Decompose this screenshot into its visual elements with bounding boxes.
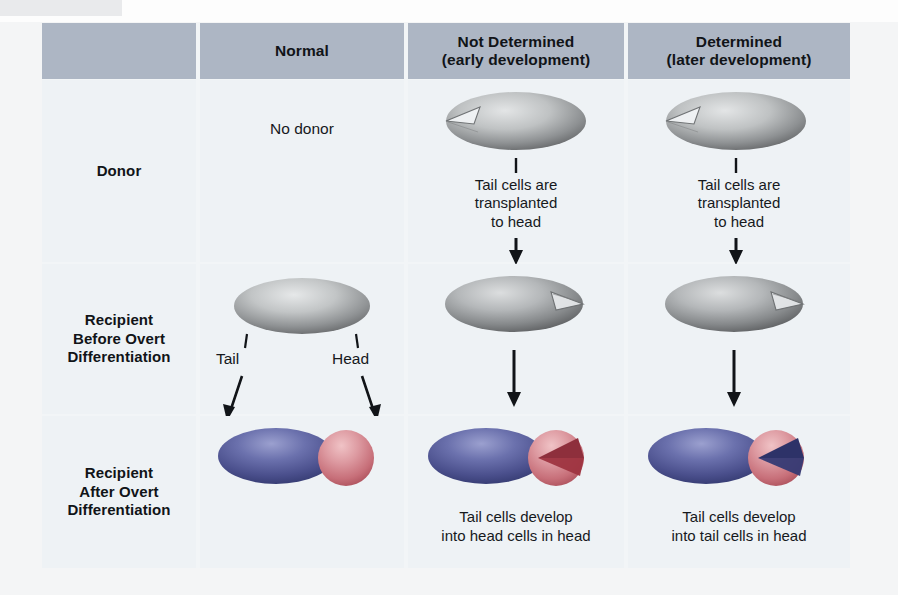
header-determined-line1: Determined	[667, 33, 812, 51]
normal-embryo-plain	[200, 264, 404, 414]
scan-artifact-corner	[0, 0, 122, 16]
cell-determined-recipient-after: Tail cells develop into tail cells in he…	[628, 416, 850, 568]
caption-not-determined: Tail cells develop into head cells in he…	[408, 508, 624, 546]
cell-not-determined-recipient-after: Tail cells develop into head cells in he…	[408, 416, 624, 568]
differentiated-embryo-normal	[200, 416, 404, 568]
row-label-recipient-after-text: Recipient After Overt Differentiation	[67, 464, 170, 520]
cell-normal-recipient-before: Tail Head	[200, 264, 404, 414]
header-cell-normal: Normal	[200, 23, 404, 79]
row-label-rb-line1: Recipient	[67, 311, 170, 330]
no-donor-text: No donor	[200, 120, 404, 138]
caption-determined: Tail cells develop into tail cells in he…	[628, 508, 850, 546]
row-label-recipient-before-text: Recipient Before Overt Differentiation	[67, 311, 170, 367]
header-normal-line1: Normal	[275, 42, 329, 60]
cell-determined-donor: Tail cells are transplanted to head	[628, 80, 850, 262]
row-label-donor-line1: Donor	[97, 162, 142, 181]
header-cell-corner	[42, 23, 196, 79]
scan-top-band	[0, 0, 898, 22]
table-header-row: Normal Not Determined (early development…	[42, 23, 850, 79]
cell-determined-recipient-before	[628, 264, 850, 414]
table-body: Donor No donor	[42, 80, 850, 568]
figure-plate: Normal Not Determined (early development…	[42, 23, 850, 568]
tail-label: Tail	[216, 350, 239, 368]
caption-d-line1: Tail cells develop	[628, 508, 850, 527]
header-not-determined-line1: Not Determined	[442, 33, 590, 51]
row-label-donor: Donor	[42, 80, 196, 262]
row-label-rb-line2: Before Overt	[67, 330, 170, 349]
header-not-determined-line2: (early development)	[442, 51, 590, 69]
header-cell-not-determined: Not Determined (early development)	[408, 23, 624, 79]
recipient-embryo-determined	[628, 264, 850, 414]
header-cell-determined: Determined (later development)	[628, 23, 850, 79]
row-label-recipient-before: Recipient Before Overt Differentiation	[42, 264, 196, 414]
recipient-embryo-not-determined	[408, 264, 624, 414]
cell-normal-recipient-after	[200, 416, 404, 568]
row-label-ra-line3: Differentiation	[67, 501, 170, 520]
header-determined-label: Determined (later development)	[667, 33, 812, 70]
row-label-ra-line2: After Overt	[67, 483, 170, 502]
caption-nd-line1: Tail cells develop	[408, 508, 624, 527]
header-determined-line2: (later development)	[667, 51, 812, 69]
row-label-donor-text: Donor	[97, 162, 142, 181]
header-not-determined-label: Not Determined (early development)	[442, 33, 590, 70]
caption-d-line2: into tail cells in head	[628, 527, 850, 546]
cell-normal-donor: No donor	[200, 80, 404, 262]
caption-nd-line2: into head cells in head	[408, 527, 624, 546]
row-label-ra-line1: Recipient	[67, 464, 170, 483]
arrow-down-icon-determined-donor	[628, 80, 850, 262]
header-normal-label: Normal	[275, 42, 329, 60]
head-label: Head	[332, 350, 369, 368]
row-label-rb-line3: Differentiation	[67, 348, 170, 367]
cell-not-determined-donor: Tail cells are transplanted to head	[408, 80, 624, 262]
cell-not-determined-recipient-before	[408, 264, 624, 414]
arrow-down-icon-not-determined-donor	[408, 80, 624, 262]
row-label-recipient-after: Recipient After Overt Differentiation	[42, 416, 196, 568]
